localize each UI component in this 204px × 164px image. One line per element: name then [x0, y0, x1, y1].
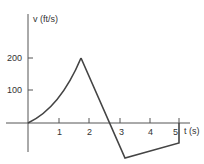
velocity-line-segments [81, 58, 179, 158]
x-tick-label-2: 2 [87, 127, 92, 137]
x-tick-label-5: 5 [173, 127, 178, 137]
y-tick-label-100: 100 [7, 85, 22, 95]
x-tick-label-4: 4 [148, 127, 153, 137]
velocity-time-chart: v (ft/s) t (s) 200 100 1 2 3 4 5 [0, 0, 204, 164]
y-axis-label: v (ft/s) [33, 14, 58, 24]
x-axis-label: t (s) [184, 126, 200, 136]
x-tick-label-3: 3 [119, 127, 124, 137]
x-tick-label-1: 1 [57, 127, 62, 137]
y-tick-label-200: 200 [7, 53, 22, 63]
accelerating-curve [28, 58, 81, 123]
